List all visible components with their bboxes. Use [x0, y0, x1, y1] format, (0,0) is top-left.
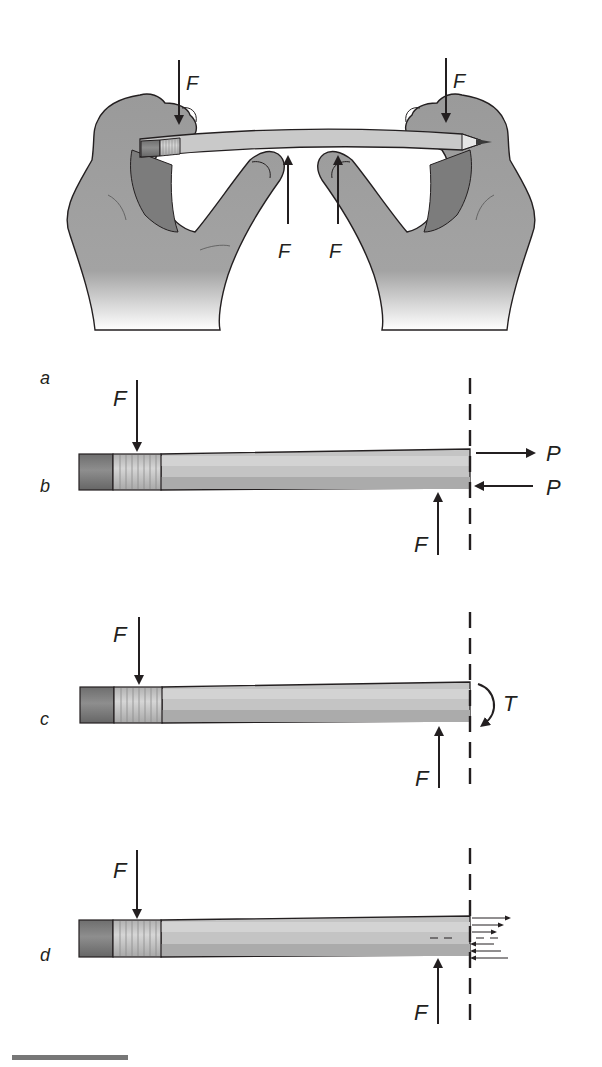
- axial-force-label-P: P: [546, 475, 561, 500]
- force-label-F: F: [186, 72, 200, 94]
- pencil-section: [79, 449, 470, 490]
- force-label-F: F: [329, 240, 343, 262]
- pencil-section: [80, 682, 470, 723]
- force-label-F: F: [414, 532, 429, 557]
- panel-label-b: b: [40, 476, 50, 496]
- pencil-section: [79, 916, 470, 957]
- force-label-F: F: [415, 766, 430, 791]
- panel-label-d: d: [40, 945, 51, 965]
- panel-c: F F T c: [40, 612, 518, 791]
- panel-a: F F F F a: [40, 58, 535, 388]
- panel-b: F F P P b: [40, 378, 561, 560]
- force-label-F: F: [414, 1000, 429, 1025]
- force-label-F: F: [453, 70, 467, 92]
- panel-d: F F d: [40, 848, 508, 1030]
- force-label-F: F: [113, 386, 128, 411]
- moment-label-T: T: [503, 691, 518, 716]
- axial-force-label-P: P: [546, 441, 561, 466]
- force-label-F: F: [113, 622, 128, 647]
- caption-rule: [12, 1055, 128, 1060]
- panel-label-a: a: [40, 368, 50, 388]
- panel-label-c: c: [40, 709, 49, 729]
- force-label-F: F: [113, 858, 128, 883]
- force-label-F: F: [278, 240, 292, 262]
- figure-canvas: F F F F a F F P P b: [0, 0, 602, 1067]
- moment-arrow-clockwise: [478, 684, 494, 724]
- left-hand-illustration: [67, 94, 284, 330]
